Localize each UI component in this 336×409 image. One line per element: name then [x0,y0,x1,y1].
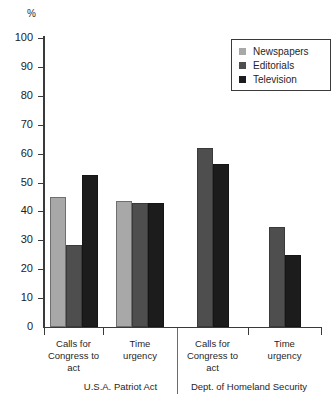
category-label-line: Time [245,338,325,350]
x-axis-tick-mark [248,328,249,335]
bar-television [82,175,98,327]
x-axis-category-label: Timeurgency [245,338,325,362]
legend-item: Newspapers [232,44,330,58]
legend-swatch-television [239,76,246,83]
bar-television [213,164,229,327]
bar-television [285,255,301,327]
bar-editorials [269,227,285,327]
category-label-line: urgency [245,350,325,362]
bar-editorials [66,245,82,327]
legend: Newspapers Editorials Television [231,39,331,91]
legend-label-newspapers: Newspapers [253,46,309,57]
x-axis-tick-mark [321,328,322,335]
x-axis-category-label: Timeurgency [100,338,180,362]
category-label-line: Congress to [173,350,253,362]
category-label-line: urgency [100,350,180,362]
bar-television [148,203,164,327]
bar-chart: % 0102030405060708090100 Calls forCongre… [0,0,336,409]
x-axis-category-label: Calls forCongress toact [173,338,253,374]
x-axis-tick-mark [103,328,104,335]
legend-swatch-editorials [239,62,246,69]
bar-editorials [197,148,213,327]
category-label-line: act [173,362,253,374]
category-label-line: act [34,362,114,374]
category-label-line: Calls for [173,338,253,350]
group-label: Dept. of Homeland Security [169,381,329,393]
bar-editorials [132,203,148,327]
legend-label-editorials: Editorials [253,60,294,71]
bar-newspapers [116,201,132,327]
legend-item: Television [232,72,330,86]
category-label-line: Time [100,338,180,350]
legend-swatch-newspapers [239,48,246,55]
legend-label-television: Television [253,74,297,85]
x-axis-tick-mark [44,328,45,335]
legend-item: Editorials [232,58,330,72]
bar-newspapers [50,197,66,327]
